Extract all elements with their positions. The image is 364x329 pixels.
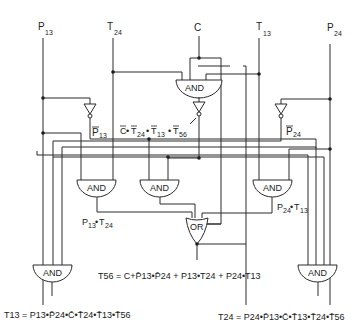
svg-text:•: • bbox=[126, 126, 129, 136]
svg-text:24: 24 bbox=[137, 131, 145, 138]
label-p24-bar: P 24 bbox=[286, 126, 301, 138]
equation-t56: T56 = C+P̄13•P̄24 + P13•T24 + P24•T13 bbox=[98, 271, 261, 281]
input-label-c: C bbox=[194, 22, 201, 33]
label-p24-t13: P 24 • T 13 bbox=[277, 202, 308, 214]
svg-text:C: C bbox=[194, 22, 201, 33]
and-gate-p13-t24: AND bbox=[77, 180, 116, 197]
label-p13-t24: P 13 • T 24 bbox=[82, 217, 113, 229]
equation-t24: T24 = P24•P̄13•C̄•T̄13•T̄24•T̄56 bbox=[218, 312, 345, 322]
svg-text:AND: AND bbox=[263, 183, 283, 193]
svg-text:AND: AND bbox=[150, 183, 170, 193]
svg-text:56: 56 bbox=[179, 131, 187, 138]
svg-text:P: P bbox=[92, 127, 99, 138]
svg-text:24: 24 bbox=[334, 30, 342, 37]
and-gate-t13-output: AND bbox=[33, 265, 72, 282]
svg-text:24: 24 bbox=[114, 29, 122, 36]
inverter-middle bbox=[193, 102, 205, 116]
svg-text:OR: OR bbox=[190, 222, 204, 232]
label-p13-bar: P 13 bbox=[92, 127, 107, 139]
svg-text:13: 13 bbox=[300, 207, 308, 214]
svg-text:•: • bbox=[95, 217, 98, 227]
inverter-p13 bbox=[84, 104, 96, 118]
input-label-p13: P 13 bbox=[38, 21, 53, 36]
logic-circuit-diagram: P 13 T 24 C T 13 P 24 AND bbox=[0, 0, 364, 329]
and-gate-middle: AND bbox=[140, 180, 179, 197]
input-label-p24: P 24 bbox=[327, 22, 342, 37]
svg-text:•: • bbox=[146, 126, 149, 136]
or-gate-t56: OR bbox=[186, 218, 208, 244]
svg-text:T: T bbox=[107, 21, 113, 32]
svg-text:24: 24 bbox=[293, 131, 301, 138]
equation-t13: T13 = P13•P̄24•C̄•T̄24•T̄13•T̄56 bbox=[4, 310, 131, 320]
svg-text:24: 24 bbox=[105, 222, 113, 229]
svg-text:13: 13 bbox=[45, 29, 53, 36]
and-gate-p24-t13: AND bbox=[253, 180, 292, 197]
svg-text:AND: AND bbox=[185, 83, 205, 93]
svg-text:•: • bbox=[290, 202, 293, 212]
wire-t24-to-top-and bbox=[113, 72, 182, 80]
svg-text:AND: AND bbox=[43, 268, 63, 278]
wire-bus-2 bbox=[37, 155, 308, 265]
input-label-t24: T 24 bbox=[107, 21, 122, 36]
svg-text:T: T bbox=[256, 21, 262, 32]
label-middle-term: C • T 24 • T 13 • T 56 bbox=[120, 126, 187, 138]
svg-text:13: 13 bbox=[99, 132, 107, 139]
and-gate-t24-output: AND bbox=[298, 265, 337, 282]
wire-c-to-top-and bbox=[190, 58, 199, 80]
input-label-t13: T 13 bbox=[256, 21, 271, 37]
svg-text:13: 13 bbox=[157, 131, 165, 138]
svg-text:•: • bbox=[168, 126, 171, 136]
svg-text:AND: AND bbox=[308, 268, 328, 278]
top-and-gate: AND bbox=[176, 80, 222, 98]
svg-text:P: P bbox=[38, 21, 45, 32]
svg-text:P: P bbox=[286, 126, 293, 137]
svg-text:AND: AND bbox=[87, 183, 107, 193]
wire-t13-to-top-and bbox=[206, 74, 259, 80]
svg-text:P: P bbox=[327, 22, 334, 33]
svg-text:13: 13 bbox=[263, 30, 271, 37]
inverter-p24 bbox=[275, 104, 287, 118]
